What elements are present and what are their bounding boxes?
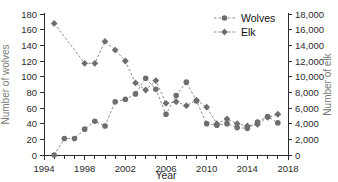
data-point-elk-2006 — [163, 100, 170, 107]
data-point-elk-2009 — [193, 97, 200, 104]
legend-marker-wolves — [222, 15, 228, 21]
legend-label-elk: Elk — [241, 26, 256, 38]
legend-entry-wolves[interactable]: Wolves — [214, 12, 275, 24]
y-left-tick-label-80: 80 — [26, 87, 37, 98]
y-right-tick-label-6,000: 6,000 — [295, 103, 319, 114]
data-point-wolves-2001 — [112, 99, 118, 105]
data-point-elk-2016 — [264, 114, 271, 121]
data-point-wolves-2006 — [163, 111, 169, 117]
data-point-elk-2010 — [203, 104, 210, 111]
x-tick-label-2018: 2018 — [277, 163, 298, 174]
data-point-wolves-1995 — [51, 152, 57, 158]
data-point-elk-2003 — [132, 80, 139, 87]
y-right-tick-label-0: 0 — [295, 150, 300, 161]
data-point-elk-2008 — [183, 102, 190, 109]
series-wolves — [51, 75, 280, 157]
data-point-elk-2012 — [224, 116, 231, 123]
data-point-wolves-1997 — [72, 136, 78, 142]
y-axis-left-title: Number of wolves — [0, 44, 11, 124]
legend-entry-elk[interactable]: Elk — [214, 26, 256, 38]
data-point-wolves-2010 — [204, 121, 210, 127]
y-left-tick-label-100: 100 — [21, 71, 37, 82]
x-tick-label-2014: 2014 — [237, 163, 258, 174]
y-left-tick-label-60: 60 — [26, 103, 37, 114]
y-right-tick-label-4,000: 4,000 — [295, 118, 319, 129]
x-axis-title: Year — [155, 169, 177, 181]
x-tick-label-2010: 2010 — [196, 163, 217, 174]
data-point-wolves-2000 — [102, 123, 108, 129]
x-tick-label-1998: 1998 — [74, 163, 95, 174]
wolves-elk-population-chart: 1994199820022006201020142018020406080100… — [0, 0, 338, 182]
data-point-wolves-1996 — [62, 136, 68, 142]
y-left-tick-label-120: 120 — [21, 56, 37, 67]
data-point-wolves-2003 — [133, 91, 139, 97]
data-point-wolves-1999 — [92, 119, 98, 125]
y-right-tick-label-12,000: 12,000 — [295, 56, 324, 67]
x-tick-label-2002: 2002 — [115, 163, 136, 174]
y-right-tick-label-14,000: 14,000 — [295, 40, 324, 51]
data-point-wolves-2008 — [184, 79, 190, 85]
legend-marker-elk — [221, 29, 228, 36]
y-right-tick-label-18,000: 18,000 — [295, 9, 324, 20]
data-point-wolves-2007 — [173, 93, 179, 99]
data-point-elk-2013 — [234, 120, 241, 127]
y-right-tick-label-10,000: 10,000 — [295, 71, 324, 82]
legend-label-wolves: Wolves — [241, 12, 275, 24]
data-point-elk-2017 — [274, 111, 281, 118]
y-axis-right-title: Number of elk — [322, 52, 333, 115]
y-left-tick-label-160: 160 — [21, 24, 37, 35]
data-point-elk-1999 — [91, 60, 98, 67]
data-point-elk-2004 — [142, 87, 149, 94]
y-left-tick-label-140: 140 — [21, 40, 37, 51]
data-point-wolves-2017 — [275, 120, 281, 126]
data-point-wolves-2002 — [123, 97, 129, 103]
chart-canvas: 1994199820022006201020142018020406080100… — [0, 0, 338, 182]
y-right-tick-label-16,000: 16,000 — [295, 24, 324, 35]
y-left-tick-label-180: 180 — [21, 9, 37, 20]
y-right-tick-label-2,000: 2,000 — [295, 134, 319, 145]
data-point-elk-2007 — [173, 98, 180, 105]
y-left-tick-label-40: 40 — [26, 118, 37, 129]
y-left-tick-label-20: 20 — [26, 134, 37, 145]
x-tick-label-1994: 1994 — [33, 163, 54, 174]
series-line-elk — [54, 23, 278, 126]
y-right-tick-label-8,000: 8,000 — [295, 87, 319, 98]
data-point-wolves-2005 — [153, 86, 159, 92]
legend: WolvesElk — [214, 12, 275, 38]
data-point-wolves-2004 — [143, 75, 149, 81]
data-point-wolves-1998 — [82, 126, 88, 132]
data-point-elk-1995 — [51, 20, 58, 27]
y-left-tick-label-0: 0 — [32, 150, 37, 161]
